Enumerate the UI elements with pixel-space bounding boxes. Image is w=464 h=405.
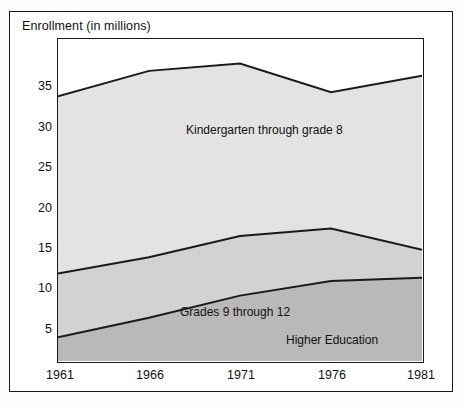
y-tick-10: 10 xyxy=(22,281,52,295)
x-axis-tick-labels: 1961 1966 1971 1976 1981 xyxy=(0,368,464,388)
plot-area: Kindergarten through grade 8 Grades 9 th… xyxy=(57,38,424,363)
series-label-grades-9-through-12: Grades 9 through 12 xyxy=(180,305,290,319)
x-tick-1961: 1961 xyxy=(46,368,74,382)
y-tick-30: 30 xyxy=(22,120,52,134)
y-tick-15: 15 xyxy=(22,241,52,255)
x-tick-1981: 1981 xyxy=(407,368,435,382)
series-label-kindergarten-through-grade-8: Kindergarten through grade 8 xyxy=(186,123,343,137)
series-label-higher-education: Higher Education xyxy=(286,333,378,347)
y-tick-5: 5 xyxy=(22,322,52,336)
enrollment-area-chart: Enrollment (in millions) Kindergarten th… xyxy=(0,0,464,405)
x-tick-1976: 1976 xyxy=(318,368,346,382)
x-tick-1966: 1966 xyxy=(136,368,164,382)
y-tick-20: 20 xyxy=(22,201,52,215)
y-tick-25: 25 xyxy=(22,160,52,174)
y-tick-35: 35 xyxy=(22,79,52,93)
x-tick-1971: 1971 xyxy=(227,368,255,382)
y-axis-tick-labels: 35 30 25 20 15 10 5 xyxy=(18,0,52,405)
